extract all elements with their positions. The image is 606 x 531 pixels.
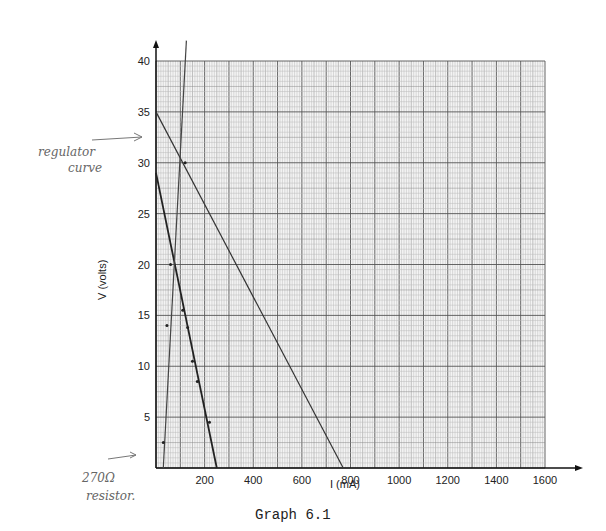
data-point bbox=[181, 309, 184, 312]
arrow-icon bbox=[92, 133, 142, 141]
annotation-curve: curve bbox=[68, 161, 102, 175]
x-tick-label: 1000 bbox=[387, 474, 411, 486]
data-point bbox=[208, 421, 211, 424]
data-point bbox=[196, 380, 199, 383]
graph-caption: Graph 6.1 bbox=[255, 507, 331, 523]
y-tick-label: 30 bbox=[138, 157, 150, 169]
data-point bbox=[191, 360, 194, 363]
data-point bbox=[184, 161, 187, 164]
annotation-resistor: resistor. bbox=[86, 489, 135, 503]
y-tick-label: 5 bbox=[144, 411, 150, 423]
arrow-icon bbox=[108, 452, 136, 459]
annotation-270-ohm: 270Ω bbox=[81, 471, 115, 485]
y-tick-label: 40 bbox=[138, 55, 150, 67]
x-tick-label: 600 bbox=[293, 474, 311, 486]
x-tick-label: 400 bbox=[244, 474, 262, 486]
chart: 2004006008001000120014001600510152025303… bbox=[0, 0, 606, 531]
y-tick-label: 35 bbox=[138, 106, 150, 118]
data-point bbox=[165, 324, 168, 327]
y-axis-label: V (volts) bbox=[96, 260, 108, 300]
x-tick-label: 200 bbox=[195, 474, 213, 486]
y-axis-arrow-icon bbox=[153, 40, 159, 48]
x-axis-arrow-icon bbox=[575, 465, 583, 471]
x-axis-label: I (mA) bbox=[330, 478, 360, 490]
x-tick-label: 1600 bbox=[533, 474, 557, 486]
y-tick-label: 20 bbox=[138, 259, 150, 271]
y-tick-label: 25 bbox=[138, 208, 150, 220]
data-point bbox=[186, 326, 189, 329]
x-tick-label: 1400 bbox=[484, 474, 508, 486]
data-point bbox=[169, 263, 172, 266]
annotation-regulator: regulator bbox=[38, 145, 96, 159]
y-tick-label: 15 bbox=[138, 309, 150, 321]
y-tick-label: 10 bbox=[138, 360, 150, 372]
data-point bbox=[162, 441, 165, 444]
x-tick-label: 1200 bbox=[436, 474, 460, 486]
